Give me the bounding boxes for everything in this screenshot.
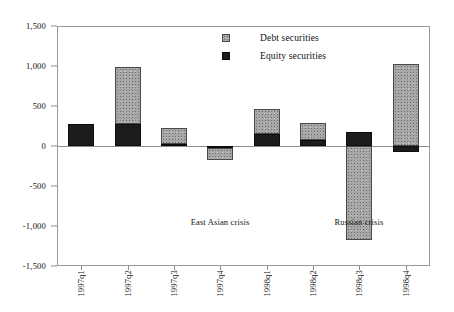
bar-segment-debt (115, 67, 141, 124)
bar-segment-equity (393, 146, 419, 152)
legend-item-equity: Equity securities (222, 48, 382, 63)
chart-figure: 1,5001,0005000-500-1,000-1,500 1997q1199… (0, 0, 454, 312)
chart-legend: Debt securities Equity securities (222, 30, 382, 66)
bar-segment-debt (161, 128, 187, 144)
bar-segment-equity (300, 140, 326, 146)
equity-swatch-icon (222, 52, 230, 60)
bar-segment-equity (161, 144, 187, 146)
legend-label-equity: Equity securities (260, 51, 326, 61)
bar-segment-debt (300, 123, 326, 140)
bar-segment-debt (393, 64, 419, 146)
bar-segment-debt (207, 148, 233, 160)
bar-segment-equity (346, 132, 372, 146)
bar-segment-equity (254, 134, 280, 146)
debt-swatch-icon (222, 34, 230, 42)
chart-annotation: Russian crisis (334, 217, 383, 227)
legend-label-debt: Debt securities (260, 33, 319, 43)
legend-item-debt: Debt securities (222, 30, 382, 45)
bar-segment-debt (254, 109, 280, 134)
bar-segment-equity (68, 124, 94, 146)
bar-segment-equity (207, 146, 233, 148)
chart-annotation: East Asian crisis (191, 217, 250, 227)
bar-segment-equity (115, 124, 141, 146)
